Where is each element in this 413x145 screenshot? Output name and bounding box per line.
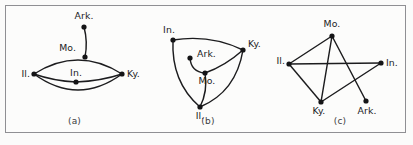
- panel-c-caption: (c): [273, 116, 407, 126]
- node-mo: [329, 33, 334, 38]
- graph-diagram-a: Ark.Mo.Il.In.Ky.: [6, 6, 143, 134]
- node-il: [197, 104, 202, 109]
- node-il: [31, 71, 36, 76]
- panel-c: Mo.Il.In.Ky.Ark. (c): [273, 6, 407, 134]
- edge-mo-ark: [190, 58, 205, 73]
- node-ark: [363, 98, 368, 103]
- node-label-il: Il.: [276, 55, 285, 66]
- node-label-mo: Mo.: [199, 75, 216, 86]
- node-in: [170, 37, 175, 42]
- graph-diagram-c: Mo.Il.In.Ky.Ark.: [273, 6, 407, 134]
- node-label-mo: Mo.: [324, 18, 341, 29]
- figure-root: Ark.Mo.Il.In.Ky. (a) In.Ky.Ark.Mo.Il. (b…: [0, 0, 413, 145]
- node-in: [378, 60, 383, 65]
- node-label-il: Il.: [21, 68, 30, 79]
- node-label-in: In.: [163, 24, 175, 35]
- edge-in-il: [173, 40, 200, 107]
- edge-il-in: [289, 63, 381, 64]
- node-label-ark: Ark.: [197, 48, 216, 59]
- node-label-ark: Ark.: [75, 10, 94, 21]
- node-ark: [187, 55, 192, 60]
- node-mo: [82, 54, 87, 59]
- edge-mo-ky: [321, 36, 332, 102]
- node-label-ky: Ky.: [127, 68, 140, 79]
- node-ky: [240, 47, 245, 52]
- node-ky: [318, 99, 323, 104]
- node-label-in: In.: [70, 67, 82, 78]
- figure-frame: Ark.Mo.Il.In.Ky. (a) In.Ky.Ark.Mo.Il. (b…: [5, 5, 406, 133]
- panel-b-caption: (b): [143, 116, 273, 126]
- node-in: [73, 79, 78, 84]
- node-il: [286, 61, 291, 66]
- graph-diagram-b: In.Ky.Ark.Mo.Il.: [143, 6, 273, 134]
- edge-ark-mo: [84, 27, 86, 57]
- node-label-mo: Mo.: [59, 42, 76, 53]
- edge-ky-in: [321, 63, 381, 102]
- panel-b: In.Ky.Ark.Mo.Il. (b): [143, 6, 273, 134]
- node-ark: [81, 24, 86, 29]
- edge-il-ky: [289, 64, 321, 102]
- node-label-ky: Ky.: [313, 105, 326, 116]
- node-ky: [119, 71, 124, 76]
- node-label-in: In.: [386, 57, 398, 68]
- node-label-ky: Ky.: [248, 38, 261, 49]
- node-label-ark: Ark.: [358, 105, 377, 116]
- panel-a: Ark.Mo.Il.In.Ky. (a): [6, 6, 143, 134]
- edge-il-mo: [289, 36, 332, 64]
- panel-a-caption: (a): [6, 116, 143, 126]
